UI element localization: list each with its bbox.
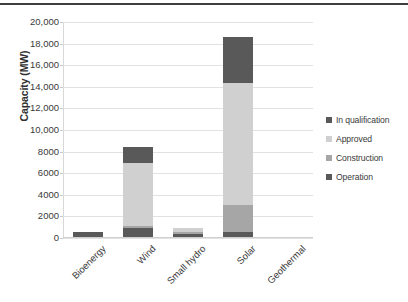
gridline [63,130,313,131]
y-axis-tick-mark [60,44,63,45]
gridline [63,87,313,88]
gridline [63,152,313,153]
legend-item[interactable]: Construction [326,148,406,167]
y-axis-tick-label: 10,000 [13,124,59,135]
y-axis-tick-mark [60,152,63,153]
gridline [63,65,313,66]
plot-area [63,22,313,238]
chart-legend: In qualificationApprovedConstructionOper… [326,110,406,186]
y-axis-tick-mark [60,195,63,196]
gridline [63,216,313,217]
legend-swatch-icon [326,117,332,123]
capacity-by-technology-chart: Capacity (MW) 20,00018,00016,00014,00012… [0,0,408,302]
legend-label: Operation [336,172,373,182]
gridline [63,44,313,45]
bar-segment[interactable] [123,163,153,226]
y-axis-tick-label: 2000 [13,210,59,221]
y-axis-tick-mark [60,173,63,174]
legend-swatch-icon [326,155,332,161]
y-axis-tick-mark [60,87,63,88]
legend-label: Approved [336,134,372,144]
y-axis-tick-label: 18,000 [13,38,59,49]
y-axis-tick-mark [60,216,63,217]
bar-stack[interactable] [223,37,253,238]
y-axis-tick-label: 0 [13,232,59,243]
legend-item[interactable]: Approved [326,129,406,148]
legend-item[interactable]: Operation [326,167,406,186]
y-axis-tick-label: 4000 [13,189,59,200]
bar-segment[interactable] [123,147,153,163]
gridline [63,173,313,174]
y-axis-tick-mark [60,108,63,109]
legend-item[interactable]: In qualification [326,110,406,129]
y-axis-tick-mark [60,238,63,239]
x-axis-category-label: Bioenergy [15,243,108,302]
y-axis-tick-mark [60,130,63,131]
y-axis-tick-label: 16,000 [13,59,59,70]
y-axis-tick-mark [60,22,63,23]
gridline [63,195,313,196]
legend-swatch-icon [326,136,332,142]
gridline [63,108,313,109]
bar-segment[interactable] [223,205,253,232]
legend-label: In qualification [336,115,389,125]
y-axis-tick-mark [60,65,63,66]
y-axis-tick-label: 14,000 [13,81,59,92]
bar-stack[interactable] [123,147,153,238]
bar-segment[interactable] [223,83,253,205]
y-axis-tick-label: 20,000 [13,16,59,27]
x-axis-baseline [63,237,313,238]
legend-swatch-icon [326,174,332,180]
gridline [63,22,313,23]
y-axis-tick-label: 8000 [13,146,59,157]
y-axis-tick-label: 6000 [13,167,59,178]
bar-segment[interactable] [223,37,253,83]
legend-label: Construction [336,153,383,163]
gridline [63,238,313,239]
y-axis-tick-label: 12,000 [13,102,59,113]
